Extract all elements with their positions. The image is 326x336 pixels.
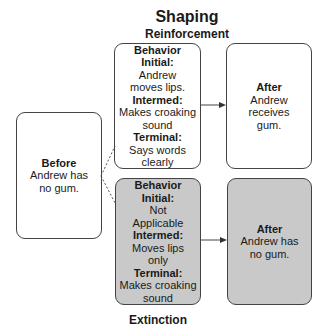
extinction-behavior-box: Behavior Initial: Not Applicable Interme… — [115, 178, 201, 305]
terminal-label: Terminal: — [134, 267, 183, 280]
before-box: Before Andrew has no gum. — [16, 112, 102, 239]
terminal-text: Makes croaking sound — [118, 279, 198, 304]
initial-label: Initial: — [141, 56, 173, 69]
intermed-label: Intermed: — [132, 94, 182, 107]
after-text: Andrew has no gum. — [237, 235, 303, 260]
before-text: Andrew has no gum. — [26, 169, 92, 194]
reinforcement-behavior-box: Behavior Initial: Andrew moves lips. Int… — [114, 43, 201, 169]
before-heading: Before — [42, 157, 77, 170]
intermed-label: Intermed: — [133, 229, 183, 242]
behavior-heading: Behavior — [134, 179, 181, 192]
terminal-text: Says words clearly — [123, 144, 193, 169]
extinction-label: Extinction — [104, 313, 212, 327]
initial-text: Andrew moves lips. — [125, 69, 191, 94]
reinforcement-after-box: After Andrew receives gum. — [226, 43, 312, 169]
intermed-text: Moves lips only — [128, 242, 188, 267]
terminal-label: Terminal: — [133, 131, 182, 144]
diagram-title: Shaping — [114, 8, 260, 26]
reinforcement-label: Reinforcement — [104, 27, 270, 41]
after-heading: After — [256, 81, 282, 94]
initial-text: Not Applicable — [128, 204, 188, 229]
behavior-heading: Behavior — [134, 44, 181, 57]
intermed-text: Makes croaking sound — [118, 106, 198, 131]
initial-label: Initial: — [142, 192, 174, 205]
after-heading: After — [257, 223, 283, 236]
extinction-after-box: After Andrew has no gum. — [227, 178, 312, 305]
after-text: Andrew receives gum. — [244, 94, 294, 132]
